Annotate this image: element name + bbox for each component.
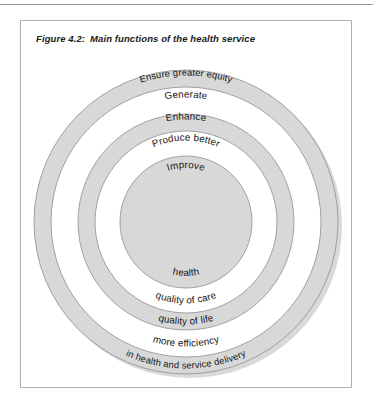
health-service-functions-diagram: Ensure greater equityin health and servi… [0, 0, 373, 412]
center-disk-bottom-label: health [172, 266, 200, 279]
concentric-rings-svg: Ensure greater equityin health and servi… [0, 0, 373, 412]
outer-gap-top-label: Generate [164, 88, 209, 101]
